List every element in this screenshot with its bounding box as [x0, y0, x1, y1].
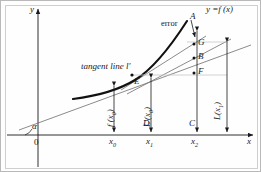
tick-label-x2: x2 — [191, 137, 198, 148]
origin-label: 0 — [34, 138, 39, 147]
point-label-F: F — [198, 67, 204, 76]
point-label-G: G — [198, 38, 205, 47]
figure-canvas: y x 0 α y =f (x) tangent line l′ error A… — [0, 0, 261, 172]
curve-label: y =f (x) — [206, 5, 233, 14]
figure-frame — [6, 6, 258, 169]
tick-label-x0: x0 — [109, 137, 116, 148]
x-axis-label: x — [247, 137, 251, 146]
diagram-svg — [1, 1, 261, 172]
point-label-E: E — [134, 77, 140, 86]
alpha-angle-label: α — [32, 122, 37, 131]
point-label-C: C — [189, 119, 195, 128]
point-label-A: A — [190, 12, 196, 21]
guide-lines — [132, 42, 227, 75]
tick-label-x1: x1 — [146, 137, 153, 148]
point-label-B: B — [198, 52, 204, 61]
auxiliary-line — [127, 39, 231, 94]
function-curve — [73, 21, 187, 99]
y-axis-label: y — [30, 5, 34, 14]
vertical-label-L-x1: L(x1) — [213, 102, 224, 120]
error-arrow — [191, 20, 195, 37]
error-label: error — [161, 19, 178, 28]
point-dots — [130, 43, 195, 77]
tangent-line-label: tangent line l′ — [81, 62, 130, 71]
vertical-label-Lprime-x0: L′(x0) — [143, 107, 154, 127]
vertical-label-f-x0: f (x0) — [106, 109, 117, 127]
angle-arc — [25, 129, 32, 135]
